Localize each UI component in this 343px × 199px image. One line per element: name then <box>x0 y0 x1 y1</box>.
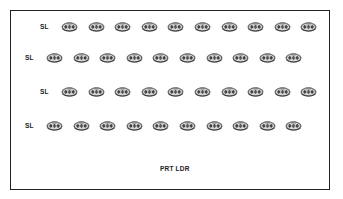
squad-member-icon <box>285 52 302 63</box>
squad-member-icon <box>194 86 211 97</box>
squad-member-icon <box>232 120 249 131</box>
squad-member-icon <box>46 120 63 131</box>
squad-member-icon <box>167 86 184 97</box>
diagram-frame <box>10 10 330 190</box>
squad-member-icon <box>141 86 158 97</box>
squad-member-icon <box>88 86 105 97</box>
squad-member-icon <box>206 120 223 131</box>
squad-member-icon <box>274 86 291 97</box>
squad-leader-label: SL <box>25 54 34 61</box>
squad-member-icon <box>126 52 143 63</box>
squad-member-icon <box>247 86 264 97</box>
squad-member-icon <box>247 21 264 32</box>
squad-member-icon <box>194 21 211 32</box>
squad-member-icon <box>141 21 158 32</box>
squad-member-icon <box>300 21 317 32</box>
squad-member-icon <box>232 52 249 63</box>
squad-member-icon <box>259 52 276 63</box>
squad-leader-label: SL <box>25 122 34 129</box>
formation-row: SL <box>0 52 343 64</box>
formation-row: SL <box>0 120 343 132</box>
formation-row: SL <box>0 21 343 33</box>
squad-member-icon <box>114 86 131 97</box>
squad-member-icon <box>126 120 143 131</box>
squad-member-icon <box>274 21 291 32</box>
squad-member-icon <box>259 120 276 131</box>
squad-member-icon <box>221 21 238 32</box>
squad-member-icon <box>152 52 169 63</box>
squad-member-icon <box>285 120 302 131</box>
squad-member-icon <box>152 120 169 131</box>
squad-member-icon <box>179 52 196 63</box>
squad-leader-label: SL <box>40 23 49 30</box>
squad-member-icon <box>99 120 116 131</box>
party-leader-label: PRT LDR <box>160 165 190 172</box>
squad-member-icon <box>300 86 317 97</box>
squad-member-icon <box>221 86 238 97</box>
squad-member-icon <box>114 21 131 32</box>
squad-member-icon <box>88 21 105 32</box>
squad-member-icon <box>73 120 90 131</box>
squad-member-icon <box>179 120 196 131</box>
squad-member-icon <box>99 52 116 63</box>
squad-member-icon <box>167 21 184 32</box>
squad-member-icon <box>61 86 78 97</box>
squad-member-icon <box>61 21 78 32</box>
formation-row: SL <box>0 86 343 98</box>
squad-leader-label: SL <box>40 88 49 95</box>
squad-member-icon <box>206 52 223 63</box>
squad-member-icon <box>46 52 63 63</box>
squad-member-icon <box>73 52 90 63</box>
